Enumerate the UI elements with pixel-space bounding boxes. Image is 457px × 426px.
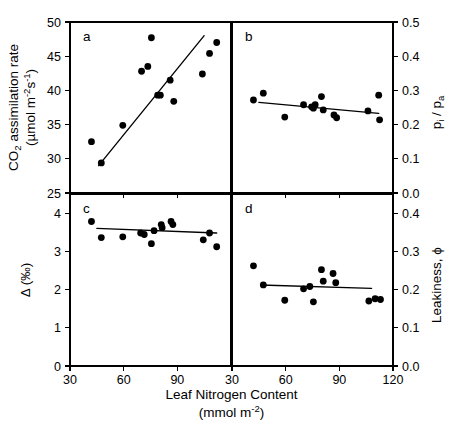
panel-a-ylabel-line1: CO2 assimilation rate	[6, 44, 23, 171]
panel-c-data-point	[141, 231, 148, 238]
panel-a-data-point	[170, 98, 177, 105]
panel-d-data-point	[320, 278, 327, 285]
panel-d-ytick-label: 0.0	[402, 360, 419, 374]
panel-a-data-point	[148, 34, 155, 41]
panel-c-data-point	[213, 243, 220, 250]
panel-a-frame	[70, 22, 231, 193]
panel-b-letter: b	[245, 29, 253, 44]
panel-b-regression-line	[259, 102, 379, 113]
panel-a-data-point	[167, 77, 174, 84]
panel-c-data-point	[169, 221, 176, 228]
panel-d-data-point	[306, 283, 313, 290]
panel-b-data-point	[365, 108, 372, 115]
panel-c-ytick-label: 4	[54, 207, 61, 221]
panel-c-data-point	[200, 236, 207, 243]
panel-c-data-point	[151, 227, 158, 234]
panel-d-ylabel: Leakiness, ϕ	[429, 247, 444, 323]
panel-d-xtick-label: 90	[332, 373, 346, 387]
panel-a-ylabel: CO2 assimilation rate(µmol m-2s-1)	[6, 44, 38, 171]
panel-c-xtick-label: 60	[117, 373, 131, 387]
panel-c-data-point	[119, 233, 126, 240]
panel-c-ytick-label: 1	[54, 321, 61, 335]
panel-d-data-point	[250, 262, 257, 269]
panel-b-data-point	[260, 90, 267, 97]
panel-a-data-point	[88, 138, 95, 145]
panel-d-ytick-label: 0.1	[402, 321, 419, 335]
panel-b-data-point	[281, 114, 288, 121]
panel-a-ytick-label: 30	[47, 152, 61, 166]
panel-d-xtick-label: 60	[279, 373, 293, 387]
panel-b-ytick-label: 0.2	[402, 118, 419, 132]
panel-c-data-point	[148, 240, 155, 247]
panel-c-data-point	[159, 224, 166, 231]
panel-d-data-point	[377, 296, 384, 303]
panel-a-letter: a	[83, 29, 91, 44]
panel-d-xtick-label: 30	[225, 373, 239, 387]
x-axis-title-line1: Leaf Nitrogen Content	[165, 387, 297, 402]
panel-b-data-point	[318, 93, 325, 100]
panel-b-data-point	[376, 116, 383, 123]
panel-a-data-point	[98, 160, 105, 167]
panel-c-ytick-label: 2	[54, 283, 61, 297]
panel-c-ylabel: Δ (‰)	[18, 263, 33, 298]
panel-a-ylabel-line2: (µmol m-2s-1)	[21, 69, 38, 146]
panel-b-ylabel-text: pi / pa	[429, 95, 446, 129]
panel-d-data-point	[332, 279, 339, 286]
panel-a-ytick-label: 45	[47, 50, 61, 64]
panel-a: 253035404550a	[47, 16, 231, 201]
panel-d-ytick-label: 0.4	[402, 207, 419, 221]
panel-d-data-point	[300, 285, 307, 292]
panel-b-data-point	[300, 101, 307, 108]
panel-c-xtick-label: 90	[170, 373, 184, 387]
panel-b-data-point	[333, 114, 340, 121]
panel-b-data-point	[312, 101, 319, 108]
panel-a-data-point	[119, 122, 126, 129]
panel-b-data-point	[320, 106, 327, 113]
panel-c-ylabel-text: Δ (‰)	[18, 263, 33, 298]
panel-d-letter: d	[245, 201, 253, 216]
panel-d-data-point	[260, 282, 267, 289]
panel-a-regression-line	[99, 36, 205, 166]
panel-d-data-point	[318, 266, 325, 273]
panel-b-data-point	[250, 97, 257, 104]
panel-a-data-point	[157, 92, 164, 99]
panel-c-data-point	[98, 234, 105, 241]
panel-a-data-point	[144, 63, 151, 70]
panel-b-ytick-label: 0.0	[402, 187, 419, 201]
panel-d-data-point	[365, 298, 372, 305]
panel-a-data-point	[206, 50, 213, 57]
panel-d-ytick-label: 0.3	[402, 245, 419, 259]
panel-d-ytick-label: 0.2	[402, 283, 419, 297]
panel-a-data-point	[213, 39, 220, 46]
panel-c-ytick-label: 3	[54, 245, 61, 259]
panel-d: 0.00.10.20.30.4d	[232, 194, 419, 374]
panel-c-letter: c	[83, 201, 90, 216]
panel-b-ytick-label: 0.4	[402, 50, 419, 64]
panel-c-data-point	[88, 218, 95, 225]
panel-a-ytick-label: 35	[47, 118, 61, 132]
panel-a-data-point	[138, 68, 145, 75]
panel-d-ylabel-text: Leakiness, ϕ	[429, 247, 444, 323]
panel-a-ytick-label: 40	[47, 84, 61, 98]
panel-b: 0.00.10.20.30.40.5b	[232, 16, 419, 201]
panel-a-ytick-label: 50	[47, 16, 61, 30]
panel-c-data-point	[206, 230, 213, 237]
panel-b-ylabel: pi / pa	[429, 95, 446, 129]
multi-panel-scatter-figure: 253035404550a0.00.10.20.30.40.5b01234c0.…	[0, 0, 457, 426]
panel-b-data-point	[375, 92, 382, 99]
panel-b-ytick-label: 0.5	[402, 16, 419, 30]
panel-d-xtick-label: 120	[383, 373, 404, 387]
panel-c-ytick-label: 0	[54, 360, 61, 374]
panel-a-data-point	[199, 71, 206, 78]
figure-container: 253035404550a0.00.10.20.30.40.5b01234c0.…	[0, 0, 457, 426]
x-axis-title-line2: (mmol m-2)	[199, 403, 264, 420]
panel-d-data-point	[281, 297, 288, 304]
panel-d-data-point	[310, 298, 317, 305]
panel-d-regression-line	[261, 285, 372, 288]
panel-b-ytick-label: 0.1	[402, 152, 419, 166]
panel-a-ytick-label: 25	[47, 187, 61, 201]
panel-c: 01234c	[54, 194, 231, 374]
panel-d-data-point	[330, 270, 337, 277]
panel-c-xtick-label: 30	[63, 373, 77, 387]
panel-d-frame	[232, 194, 393, 366]
